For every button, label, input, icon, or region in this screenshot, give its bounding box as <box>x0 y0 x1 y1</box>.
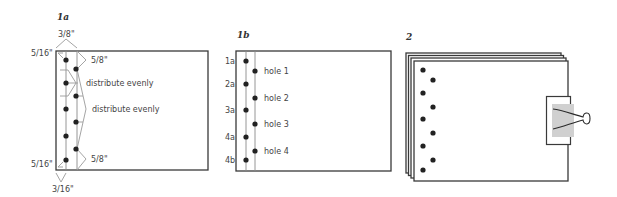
figure-label-1b: 1b <box>237 30 250 40</box>
position-label: 1a <box>225 57 235 66</box>
hole-dot <box>73 146 78 151</box>
hole-dot <box>430 130 435 135</box>
hole-dot <box>243 157 248 162</box>
hole-dot <box>63 57 68 62</box>
hole-dot <box>243 107 248 112</box>
hole-label: hole 2 <box>264 94 289 103</box>
hole-dot <box>63 80 68 85</box>
figure-label-1a: 1a <box>57 12 69 22</box>
hole-dot <box>63 157 68 162</box>
note-distribute-evenly-2: distribute evenly <box>92 105 160 114</box>
dimension-label-top-left: 5/16" <box>31 49 53 58</box>
hole-dot <box>420 90 425 95</box>
hole-dot <box>430 77 435 82</box>
paper-sheet-front <box>414 61 568 181</box>
dimension-label-bottom: 3/16" <box>52 185 74 194</box>
position-label: 4b <box>225 156 235 165</box>
figure-label-2: 2 <box>405 32 412 42</box>
hole-label: hole 4 <box>264 147 289 156</box>
dimension-label-bottom-left: 5/16" <box>31 160 53 169</box>
position-label: 4a <box>225 133 235 142</box>
hole-dot <box>252 95 257 100</box>
hole-dot <box>420 67 425 72</box>
diagram-canvas: 1a 3/8" 3/16" 5/16" 5/16" 5/8" distribut… <box>0 0 617 197</box>
hole-dot <box>420 143 425 148</box>
hole-dot <box>252 68 257 73</box>
hole-dot <box>73 66 78 71</box>
hole-label: hole 3 <box>264 120 289 129</box>
dimension-label-bottom-right: 5/8" <box>91 155 108 164</box>
hole-dot <box>243 134 248 139</box>
note-distribute-evenly-1: distribute evenly <box>86 79 154 88</box>
hole-dot <box>420 116 425 121</box>
panel-1a: 1a 3/8" 3/16" 5/16" 5/16" 5/8" distribut… <box>31 12 208 194</box>
position-label: 3a <box>225 106 235 115</box>
dimension-caret-top <box>56 39 77 48</box>
dimension-label-top-right: 5/8" <box>91 56 108 65</box>
hole-dot <box>73 93 78 98</box>
hole-dot <box>243 58 248 63</box>
hole-dot <box>420 167 425 172</box>
hole-dot <box>63 106 68 111</box>
dimension-label-top: 3/8" <box>58 30 75 39</box>
dimension-caret-bottom <box>56 173 66 182</box>
hole-dot <box>73 119 78 124</box>
hole-label: hole 1 <box>264 67 289 76</box>
hole-dot <box>430 157 435 162</box>
hole-dot <box>252 148 257 153</box>
position-label: 2a <box>225 80 235 89</box>
panel-2: 2 <box>405 32 590 181</box>
hole-dot <box>63 133 68 138</box>
hole-dot <box>252 121 257 126</box>
hole-dot <box>430 104 435 109</box>
paper-sheet <box>236 51 391 171</box>
panel-1b: 1b 1a 2a 3a 4a 4b hole 1 hole 2 hole 3 h… <box>225 30 391 171</box>
hole-dot <box>243 81 248 86</box>
binder-clip-icon <box>547 97 591 145</box>
